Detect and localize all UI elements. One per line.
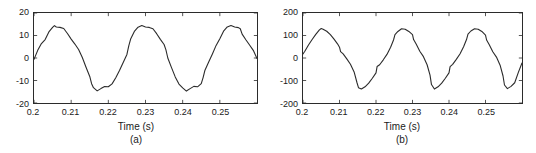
y-tick-label: 20 <box>19 8 29 17</box>
y-tick-label: -100 <box>280 77 298 86</box>
x-axis-title-a: Time (s) <box>2 121 270 132</box>
x-tick-label: 0.25 <box>477 108 495 117</box>
data-series-line <box>303 29 522 90</box>
panel-caption-a: (a) <box>2 134 270 145</box>
y-tick-label: 0 <box>293 54 298 63</box>
y-tick-label: 10 <box>19 31 29 40</box>
data-series-line <box>34 26 257 91</box>
y-axis-ticks-a: 20100-10-20 <box>0 12 29 104</box>
x-axis-title-b: Time (s) <box>268 121 536 132</box>
x-tick-label: 0.22 <box>367 108 385 117</box>
waveform-svg-b <box>303 13 522 103</box>
x-tick-label: 0.23 <box>404 108 422 117</box>
waveform-svg-a <box>34 13 257 103</box>
x-tick-label: 0.21 <box>330 108 348 117</box>
y-axis-ticks-b: 2001000-100-200 <box>268 12 298 104</box>
y-tick-label: 100 <box>283 31 298 40</box>
y-tick-label: -10 <box>16 77 29 86</box>
x-tick-label: 0.2 <box>27 108 40 117</box>
chart-panel-a: 20100-10-20 0.20.210.220.230.240.25 Time… <box>0 0 268 153</box>
y-tick-label: 0 <box>24 54 29 63</box>
x-tick-label: 0.24 <box>174 108 192 117</box>
chart-panel-b: 2001000-100-200 0.20.210.220.230.240.25 … <box>268 0 536 153</box>
x-axis-ticks-b: 0.20.210.220.230.240.25 <box>302 108 523 120</box>
plot-area-a <box>33 12 258 104</box>
x-tick-label: 0.23 <box>137 108 155 117</box>
x-tick-label: 0.25 <box>212 108 230 117</box>
x-tick-label: 0.21 <box>62 108 80 117</box>
x-tick-label: 0.22 <box>99 108 117 117</box>
x-tick-label: 0.24 <box>441 108 459 117</box>
figure-container: 20100-10-20 0.20.210.220.230.240.25 Time… <box>0 0 536 153</box>
y-tick-label: 200 <box>283 8 298 17</box>
x-axis-ticks-a: 0.20.210.220.230.240.25 <box>33 108 258 120</box>
plot-area-b <box>302 12 523 104</box>
panel-caption-b: (b) <box>268 134 536 145</box>
x-tick-label: 0.2 <box>296 108 309 117</box>
